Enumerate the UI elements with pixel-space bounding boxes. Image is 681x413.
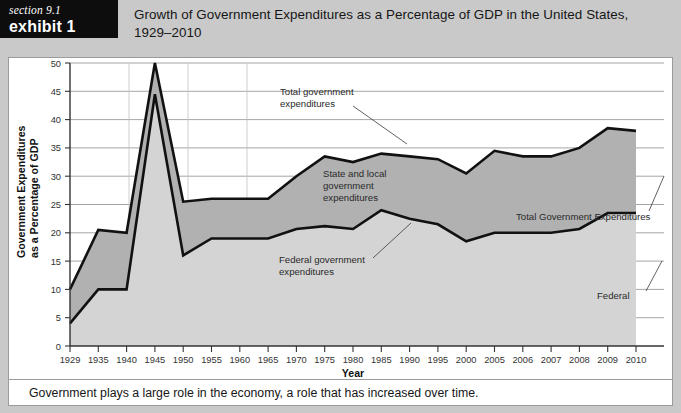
annotation-state-local-line3: expenditures xyxy=(323,192,378,203)
y-tick-label: 0 xyxy=(56,342,61,352)
y-tick-label: 45 xyxy=(51,87,61,97)
y-tick-label: 30 xyxy=(51,172,61,182)
y-axis-title: Government Expenditures as a Percentage … xyxy=(15,123,40,258)
x-tick-label: 2006 xyxy=(512,355,533,365)
x-tick-label: 2008 xyxy=(569,355,590,365)
exhibit-caption-bar: Government plays a large role in the eco… xyxy=(8,380,673,406)
x-tick-label: 1940 xyxy=(116,355,137,365)
x-tick-label: 1995 xyxy=(428,355,449,365)
x-axis-title: Year xyxy=(342,367,364,379)
exhibit-label: exhibit 1 xyxy=(9,17,118,36)
x-tick-label: 1990 xyxy=(399,355,420,365)
y-tick-label: 40 xyxy=(51,115,61,125)
chart-panel: 50 45 40 35 30 25 20 15 10 5 0 xyxy=(8,57,673,380)
exhibit-page: section 9.1 exhibit 1 Growth of Governme… xyxy=(0,0,681,413)
annotation-state-local-line2: government xyxy=(323,180,374,191)
annotation-federal-line2: expenditures xyxy=(279,266,334,277)
annotation-total-right-label: Total Government Expenditures xyxy=(516,211,651,222)
section-label: section 9.1 xyxy=(9,4,118,17)
annotation-state-local-line1: State and local xyxy=(323,168,386,179)
y-tick-label: 10 xyxy=(51,285,61,295)
x-tick-label: 1980 xyxy=(343,355,364,365)
exhibit-caption: Government plays a large role in the eco… xyxy=(9,386,479,400)
annotation-federal-right-label: Federal xyxy=(597,290,630,301)
annotation-total-line2: expenditures xyxy=(280,98,335,109)
y-tick-label: 35 xyxy=(51,143,61,153)
x-tick-label: 1935 xyxy=(88,355,109,365)
x-ticks xyxy=(70,346,636,352)
annotation-federal-line1: Federal government xyxy=(279,254,365,265)
y-tick-label: 25 xyxy=(51,200,61,210)
x-tick-label: 2007 xyxy=(541,355,562,365)
expenditures-area-chart: 50 45 40 35 30 25 20 15 10 5 0 xyxy=(9,58,672,379)
y-tick-label: 20 xyxy=(51,228,61,238)
y-tick-label: 5 xyxy=(56,313,61,323)
y-tick-label: 50 xyxy=(51,59,61,69)
x-tick-label: 1965 xyxy=(258,355,279,365)
annotation-total-line1: Total government xyxy=(280,86,354,97)
exhibit-tag: section 9.1 exhibit 1 xyxy=(0,0,118,38)
x-tick-label: 1970 xyxy=(286,355,307,365)
page-title: Growth of Government Expenditures as a P… xyxy=(118,0,681,41)
x-tick-label: 1945 xyxy=(145,355,166,365)
x-tick-label: 1950 xyxy=(173,355,194,365)
x-tick-label: 2009 xyxy=(597,355,618,365)
x-tick-label: 1960 xyxy=(229,355,250,365)
x-tick-label: 2010 xyxy=(626,355,647,365)
x-tick-label: 2005 xyxy=(484,355,505,365)
x-tick-label: 1929 xyxy=(60,355,81,365)
x-tick-label: 2000 xyxy=(456,355,477,365)
x-tick-label: 1985 xyxy=(371,355,392,365)
x-tick-labels: 1929 1935 1940 1945 1950 1955 1960 1965 … xyxy=(60,355,647,365)
exhibit-header: section 9.1 exhibit 1 Growth of Governme… xyxy=(0,0,681,56)
x-tick-label: 1975 xyxy=(314,355,335,365)
y-tick-label: 15 xyxy=(51,257,61,267)
x-tick-label: 1955 xyxy=(201,355,222,365)
